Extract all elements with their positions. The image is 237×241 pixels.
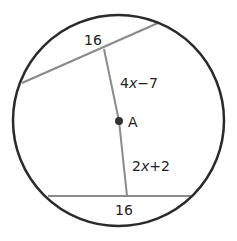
top-chord-length-label: 16 (84, 32, 102, 48)
bottom-chord-length-label: 16 (115, 202, 133, 218)
upper-distance-segment (104, 49, 119, 121)
diagram-canvas: 16 16 4x−7 2x+2 A (0, 0, 237, 241)
lower-segment-label: 2x+2 (132, 158, 170, 174)
center-point-a (115, 117, 123, 125)
center-label: A (128, 114, 138, 130)
upper-segment-label: 4x−7 (120, 75, 158, 91)
lower-distance-segment (119, 121, 127, 196)
circle-diagram: 16 16 4x−7 2x+2 A (0, 0, 237, 241)
